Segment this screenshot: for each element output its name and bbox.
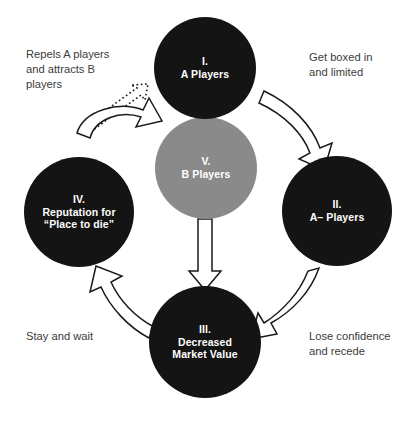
- node-i-label: I. A Players: [175, 55, 235, 81]
- arrow-iii-to-iv-icon: [90, 266, 154, 338]
- node-iv-label: IV. Reputation for “Place to die”: [36, 193, 121, 231]
- node-circle-iv[interactable]: IV. Reputation for “Place to die”: [24, 157, 134, 267]
- node-circle-iii[interactable]: III. Decreased Market Value: [149, 286, 261, 398]
- node-v-label: V. B Players: [176, 155, 237, 181]
- caption-stay-and-wait: Stay and wait: [26, 329, 136, 344]
- arrow-iv-to-v-icon: [77, 98, 162, 138]
- node-circle-i[interactable]: I. A Players: [154, 17, 256, 119]
- caption-repels: Repels A players and attracts B players: [26, 47, 146, 91]
- node-circle-v[interactable]: V. B Players: [155, 117, 257, 219]
- diagram-canvas: I. A Players V. B Players II. A– Players…: [0, 0, 419, 430]
- node-iii-label: III. Decreased Market Value: [166, 323, 243, 361]
- node-ii-label: II. A– Players: [304, 198, 371, 224]
- caption-lose-confidence: Lose confidence and recede: [309, 329, 419, 359]
- node-circle-ii[interactable]: II. A– Players: [282, 156, 392, 266]
- caption-boxed-in: Get boxed in and limited: [309, 50, 417, 80]
- arrow-v-to-iii-icon: [189, 219, 221, 290]
